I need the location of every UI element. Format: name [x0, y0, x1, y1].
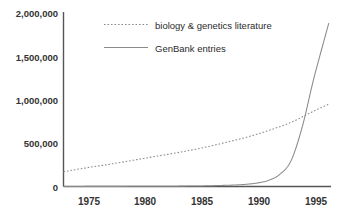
x-tick-label-1990: 1990 — [248, 196, 270, 207]
y-tick-label-2000000: 2,000,000 — [0, 8, 58, 19]
x-tick-label-1975: 1975 — [78, 196, 100, 207]
legend-label-biology-genetics-literature: biology & genetics literature — [155, 19, 272, 30]
legend-label-genbank-entries: GenBank entries — [155, 42, 226, 53]
x-tick-label-1980: 1980 — [134, 196, 156, 207]
y-tick-label-500000: 500,000 — [0, 138, 58, 149]
y-tick-label-1000000: 1,000,000 — [0, 95, 58, 106]
chart-container: 2,000,000 1,500,000 1,000,000 500,000 0 … — [0, 0, 338, 219]
x-tick-label-1995: 1995 — [305, 196, 327, 207]
y-tick-label-1500000: 1,500,000 — [0, 51, 58, 62]
series-line-biology-genetics-literature — [64, 104, 329, 172]
x-tick-label-1985: 1985 — [191, 196, 213, 207]
y-tick-label-0: 0 — [0, 181, 58, 192]
